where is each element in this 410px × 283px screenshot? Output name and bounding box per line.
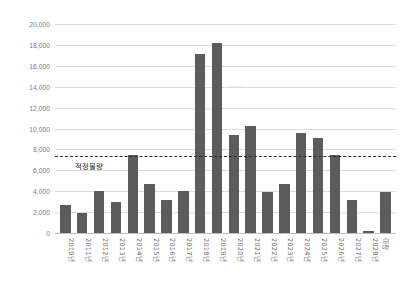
bar[interactable]	[77, 213, 87, 233]
bar-slot	[259, 24, 276, 233]
bar[interactable]	[330, 155, 340, 233]
x-axis-label-slot: 2011년	[74, 236, 91, 281]
y-axis-tick-label: 4,000	[33, 188, 50, 195]
x-axis-tick-label: 미정	[382, 238, 392, 250]
y-axis-tick-label: 10,000	[29, 125, 50, 132]
bar[interactable]	[128, 155, 138, 233]
bar-chart: 02,0004,0006,0008,00010,00012,00014,0001…	[0, 0, 410, 283]
bar-slot	[108, 24, 125, 233]
y-axis-tick-label: 14,000	[29, 83, 50, 90]
y-axis-tick-label: 8,000	[33, 146, 50, 153]
bar[interactable]	[347, 200, 357, 233]
bar[interactable]	[296, 133, 306, 233]
x-axis-label-slot: 2014년	[124, 236, 141, 281]
bar-slot	[91, 24, 108, 233]
x-axis-label-slot: 2022년	[259, 236, 276, 281]
x-axis-label-slot: 2024년	[293, 236, 310, 281]
y-axis-tick-label: 16,000	[29, 62, 50, 69]
y-axis-tick-label: 0	[46, 230, 50, 237]
bar[interactable]	[380, 192, 390, 233]
x-axis-label-slot: 2020년	[225, 236, 242, 281]
bar[interactable]	[279, 184, 289, 233]
bar-slot	[242, 24, 259, 233]
x-axis-label-slot: 2016년	[158, 236, 175, 281]
y-axis-tick-label: 6,000	[33, 167, 50, 174]
bar[interactable]	[363, 231, 373, 233]
bar[interactable]	[111, 202, 121, 233]
bar[interactable]	[178, 191, 188, 233]
y-axis-tick-label: 18,000	[29, 41, 50, 48]
y-axis-tick-label: 20,000	[29, 21, 50, 28]
x-axis-label-slot: 2023년	[276, 236, 293, 281]
x-axis-label-slot: 2021년	[242, 236, 259, 281]
bar-slot	[327, 24, 344, 233]
x-axis-label-slot: 2017년	[175, 236, 192, 281]
bar-series	[55, 24, 396, 233]
target-volume-line	[55, 156, 396, 157]
x-axis-label-slot: 2025년	[310, 236, 327, 281]
y-axis-tick-label: 2,000	[33, 209, 50, 216]
x-axis-label-slot: 2013년	[108, 236, 125, 281]
x-axis-labels: 2010년2011년2012년2013년2014년2015년2016년2017년…	[55, 236, 396, 281]
bar-slot	[158, 24, 175, 233]
bar-slot	[276, 24, 293, 233]
bar-slot	[360, 24, 377, 233]
x-axis-label-slot: 2026년	[327, 236, 344, 281]
bar-slot	[74, 24, 91, 233]
x-axis-label-slot: 2012년	[91, 236, 108, 281]
bar-slot	[209, 24, 226, 233]
bar-slot	[293, 24, 310, 233]
plot-area: 02,0004,0006,0008,00010,00012,00014,0001…	[55, 24, 396, 233]
x-axis-label-slot: 2018년	[192, 236, 209, 281]
bar[interactable]	[229, 135, 239, 233]
gridline: 0	[55, 233, 396, 234]
bar-slot	[310, 24, 327, 233]
bar-slot	[225, 24, 242, 233]
y-axis-tick-label: 12,000	[29, 104, 50, 111]
target-volume-label: 적정물량	[75, 160, 103, 171]
bar[interactable]	[313, 138, 323, 233]
bar-slot	[124, 24, 141, 233]
bar-slot	[141, 24, 158, 233]
bar[interactable]	[245, 126, 255, 233]
bar[interactable]	[144, 184, 154, 233]
x-axis-label-slot: 2027년	[343, 236, 360, 281]
x-axis-label-slot: 2015년	[141, 236, 158, 281]
bar[interactable]	[262, 192, 272, 233]
x-axis-label-slot: 2019년	[209, 236, 226, 281]
bar[interactable]	[94, 191, 104, 233]
bar[interactable]	[60, 205, 70, 233]
bar[interactable]	[212, 43, 222, 233]
bar-slot	[175, 24, 192, 233]
bar-slot	[192, 24, 209, 233]
x-axis-label-slot: 2010년	[57, 236, 74, 281]
bar-slot	[57, 24, 74, 233]
bar-slot	[377, 24, 394, 233]
bar-slot	[343, 24, 360, 233]
x-axis-label-slot: 미정	[377, 236, 394, 281]
bar[interactable]	[161, 200, 171, 233]
x-axis-label-slot: 2028년	[360, 236, 377, 281]
bar[interactable]	[195, 54, 205, 233]
